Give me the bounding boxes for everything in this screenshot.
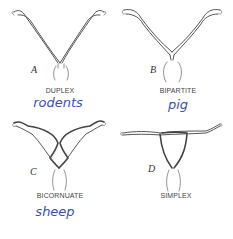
duplex-uterus-drawing bbox=[12, 11, 106, 80]
panel-d-letter: D bbox=[147, 163, 156, 174]
panel-c-letter: C bbox=[30, 166, 37, 177]
bipartite-uterus-drawing bbox=[122, 9, 222, 82]
panel-a-caption: DUPLEX bbox=[46, 87, 75, 94]
panel-b-letter: B bbox=[150, 64, 156, 75]
panel-a-annotation: rodents bbox=[33, 95, 83, 110]
simplex-uterus-drawing bbox=[120, 124, 222, 191]
panel-c-annotation: sheep bbox=[35, 204, 74, 219]
panel-d-caption: SIMPLEX bbox=[160, 192, 191, 199]
panel-c-bicornuate: C BICORNUATE sheep bbox=[13, 121, 106, 219]
panel-b-annotation: pig bbox=[167, 97, 188, 112]
uterus-types-diagram: A DUPLEX rodents B BIPARTITE pig bbox=[0, 0, 233, 239]
panel-c-caption: BICORNUATE bbox=[37, 192, 84, 199]
panel-b-bipartite: B BIPARTITE pig bbox=[122, 9, 222, 112]
panel-a-letter: A bbox=[30, 64, 38, 75]
bicornuate-uterus-drawing bbox=[13, 121, 106, 190]
panel-d-simplex: D SIMPLEX bbox=[120, 124, 222, 199]
panel-a-duplex: A DUPLEX rodents bbox=[12, 11, 106, 110]
panel-b-caption: BIPARTITE bbox=[160, 87, 197, 94]
